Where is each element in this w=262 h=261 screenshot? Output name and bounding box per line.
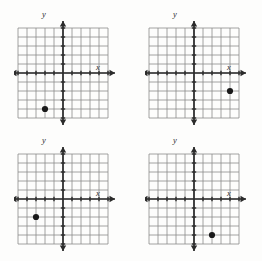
coordinate-plane-1[interactable]	[14, 17, 120, 129]
coordinate-plane-3[interactable]	[14, 143, 120, 255]
graph-cell-4[interactable]: y x	[131, 135, 262, 261]
x-axis-arrow-right	[110, 70, 116, 76]
graph-cell-1[interactable]: y x	[0, 9, 131, 135]
x-axis-label-2: x	[227, 63, 231, 72]
x-axis-arrow-left	[145, 70, 148, 76]
coordinate-plane-svg-4	[145, 143, 251, 255]
y-axis-arrow-up	[191, 21, 197, 27]
y-axis-arrow-up	[191, 147, 197, 153]
plotted-point[interactable]	[33, 214, 39, 220]
y-axis-label-1: y	[42, 10, 46, 19]
x-axis-arrow-left	[145, 196, 148, 202]
plotted-point[interactable]	[209, 232, 215, 238]
y-axis-label-4: y	[173, 136, 177, 145]
y-axis-arrow-down	[191, 120, 197, 126]
y-axis-arrow-down	[191, 246, 197, 252]
graph-cell-2[interactable]: y x	[131, 9, 262, 135]
x-axis-arrow-left	[14, 196, 17, 202]
y-axis-arrow-down	[60, 120, 66, 126]
graph-cell-3[interactable]: y x	[0, 135, 131, 261]
coordinate-plane-svg-1	[14, 17, 120, 129]
x-axis-arrow-right	[241, 70, 247, 76]
plotted-point[interactable]	[227, 88, 233, 94]
y-axis-arrow-up	[60, 21, 66, 27]
coordinate-plane-svg-2	[145, 17, 251, 129]
x-axis-arrow-right	[241, 196, 247, 202]
graph-grid: y x y x y x y x	[0, 9, 262, 261]
coordinate-plane-svg-3	[14, 143, 120, 255]
y-axis-label-3: y	[42, 136, 46, 145]
x-axis-label-1: x	[96, 63, 100, 72]
x-axis-label-3: x	[96, 189, 100, 198]
y-axis-label-2: y	[173, 10, 177, 19]
plotted-point[interactable]	[42, 106, 48, 112]
page-header-text	[0, 0, 262, 9]
worksheet-page: y x y x y x y x	[0, 0, 262, 261]
x-axis-arrow-left	[14, 70, 17, 76]
y-axis-arrow-up	[60, 147, 66, 153]
coordinate-plane-2[interactable]	[145, 17, 251, 129]
x-axis-label-4: x	[227, 189, 231, 198]
y-axis-arrow-down	[60, 246, 66, 252]
x-axis-arrow-right	[110, 196, 116, 202]
coordinate-plane-4[interactable]	[145, 143, 251, 255]
